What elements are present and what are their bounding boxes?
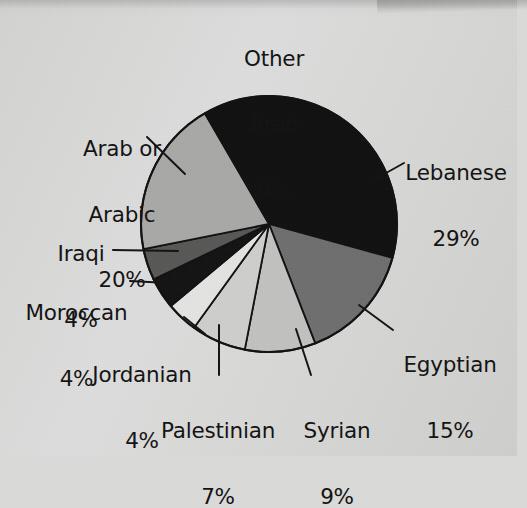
slice-label-palestinian-percent: 7% — [148, 486, 288, 508]
slice-label-other-arab-percent: 9% — [209, 179, 339, 201]
slice-label-syrian-percent: 9% — [292, 486, 382, 508]
slice-label-palestinian-line1: Palestinian — [148, 420, 288, 442]
slice-label-lebanese: Lebanese 29% — [398, 118, 514, 293]
slice-label-lebanese-line1: Lebanese — [398, 162, 514, 184]
slice-label-syrian-line1: Syrian — [292, 420, 382, 442]
slice-label-arab-or-arabic-line1: Arab or — [61, 138, 183, 160]
slice-label-egyptian-percent: 15% — [390, 420, 510, 442]
slice-label-syrian: Syrian 9% — [292, 376, 382, 508]
slice-label-other-arab-line2: Arab — [209, 114, 339, 136]
slice-label-egyptian-line1: Egyptian — [390, 354, 510, 376]
slice-label-egyptian: Egyptian 15% — [390, 310, 510, 485]
slice-label-other-arab-line1: Other — [209, 48, 339, 70]
slice-label-other-arab: Other Arab 9% — [209, 4, 339, 245]
slice-label-palestinian: Palestinian 7% — [148, 376, 288, 508]
leader-egyptian — [359, 305, 393, 330]
slice-label-lebanese-percent: 29% — [398, 228, 514, 250]
